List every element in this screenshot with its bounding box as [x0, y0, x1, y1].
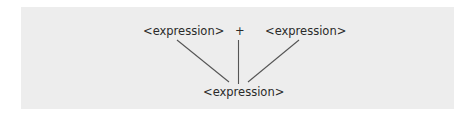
node-left-expression: <expression> — [143, 25, 224, 38]
node-right-expression: <expression> — [265, 25, 346, 38]
node-parent-expression: <expression> — [203, 86, 284, 99]
tree-edges — [0, 0, 476, 117]
edge-right — [248, 40, 299, 82]
edge-left — [177, 40, 229, 82]
node-plus-operator: + — [235, 25, 245, 38]
